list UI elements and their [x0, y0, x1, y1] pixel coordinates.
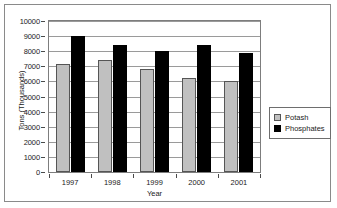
y-tick-mark: [41, 21, 45, 22]
x-tick-label: 1997: [62, 178, 79, 187]
y-tick-label: 3000: [24, 122, 40, 131]
legend-item-phosphates[interactable]: Phosphates: [274, 123, 325, 134]
y-tick-mark: [41, 127, 45, 128]
x-tick-mark: [176, 174, 177, 178]
y-tick-label: 8000: [24, 47, 40, 56]
bar-group: [49, 21, 91, 172]
bar-phosphates-1998[interactable]: [113, 45, 127, 172]
x-tick-label: 2000: [188, 178, 205, 187]
x-tick-mark: [133, 174, 134, 178]
bar-potash-1999[interactable]: [140, 69, 154, 172]
bar-group: [176, 21, 218, 172]
plot-area: [48, 20, 261, 173]
y-tick-mark: [41, 51, 45, 52]
y-tick-mark: [41, 36, 45, 37]
x-tick-mark: [218, 174, 219, 178]
y-tick-mark: [41, 81, 45, 82]
y-tick-mark: [41, 66, 45, 67]
x-axis-tick-labels: 19971998199920002001: [48, 174, 261, 188]
bar-phosphates-1997[interactable]: [71, 36, 85, 172]
bars-layer: [49, 21, 260, 172]
y-tick-mark: [41, 112, 45, 113]
bar-group: [218, 21, 260, 172]
y-tick-mark: [41, 97, 45, 98]
x-tick-label: 1999: [146, 178, 163, 187]
x-tick-label: 1998: [104, 178, 121, 187]
bar-potash-1997[interactable]: [56, 64, 70, 172]
y-tick-label: 0: [36, 168, 40, 177]
bar-group: [133, 21, 175, 172]
chart-legend: PotashPhosphates: [269, 107, 331, 139]
x-tick-label: 2001: [231, 178, 248, 187]
bar-group: [91, 21, 133, 172]
x-tick-mark: [49, 174, 50, 178]
y-tick-mark: [41, 172, 45, 173]
y-tick-label: 5000: [24, 92, 40, 101]
y-tick-label: 6000: [24, 77, 40, 86]
bar-phosphates-2001[interactable]: [239, 53, 253, 172]
x-tick-mark: [91, 174, 92, 178]
y-tick-mark: [41, 157, 45, 158]
bar-potash-2000[interactable]: [182, 78, 196, 172]
y-tick-label: 4000: [24, 107, 40, 116]
y-tick-label: 1000: [24, 152, 40, 161]
y-tick-label: 9000: [24, 32, 40, 41]
legend-swatch-icon: [274, 114, 281, 121]
x-axis-title: Year: [48, 189, 261, 198]
bar-phosphates-2000[interactable]: [197, 45, 211, 172]
x-tick-mark: [260, 174, 261, 178]
bar-potash-1998[interactable]: [98, 60, 112, 172]
y-tick-label: 7000: [24, 62, 40, 71]
legend-swatch-icon: [274, 125, 281, 132]
legend-label: Phosphates: [285, 124, 325, 133]
chart-frame: Tons (Thousands) 10000900080007000600050…: [4, 4, 331, 202]
legend-item-potash[interactable]: Potash: [274, 112, 325, 123]
y-tick-label: 2000: [24, 137, 40, 146]
bar-potash-2001[interactable]: [224, 81, 238, 172]
y-tick-label: 10000: [20, 17, 40, 26]
legend-label: Potash: [285, 113, 308, 122]
y-axis-tick-labels: 1000090008000700060005000400030002000100…: [5, 20, 45, 173]
y-tick-mark: [41, 142, 45, 143]
bar-phosphates-1999[interactable]: [155, 51, 169, 172]
